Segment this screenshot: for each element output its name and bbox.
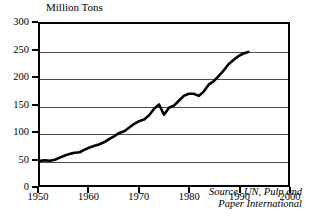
- y-axis: 300250200150100500: [0, 0, 36, 216]
- x-tick-1950: [37, 187, 39, 193]
- y-tick-label-250: 250: [13, 45, 29, 56]
- y-tick-label-300: 300: [13, 17, 29, 28]
- chart-title: Million Tons: [46, 1, 103, 13]
- source-line-2: Paper International: [209, 198, 302, 210]
- x-tick-2000: [289, 187, 291, 193]
- y-tick-label-50: 50: [19, 155, 30, 166]
- x-tick-1980: [188, 187, 190, 193]
- x-tick-1990: [239, 187, 241, 193]
- chart-container: Million Tons 300250200150100500 19501960…: [0, 0, 310, 216]
- y-tick-label-200: 200: [13, 72, 29, 83]
- x-tick-1970: [138, 187, 140, 193]
- data-line-layer: [40, 24, 288, 185]
- plot-area: [38, 22, 290, 187]
- series-line-world-paper-production: [40, 52, 248, 161]
- x-tick-1960: [87, 187, 89, 193]
- y-tick-label-150: 150: [13, 100, 29, 111]
- y-tick-label-100: 100: [13, 127, 29, 138]
